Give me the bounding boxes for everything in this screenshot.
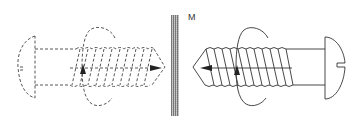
mirror-screw-diagram: M [0, 0, 358, 126]
real-screw [193, 28, 345, 106]
thread-crest-bottom [205, 85, 293, 87]
thread-crest-top-dashed [76, 48, 154, 50]
rotation-arc-dashed [82, 27, 115, 105]
axis-arrow-right-icon [150, 65, 162, 71]
mirror-plane [171, 15, 179, 116]
rotation-arc [236, 28, 268, 106]
axis-arrow-left-icon [200, 65, 212, 71]
screw-head [325, 37, 345, 99]
mirror-image-screw [18, 27, 165, 105]
screw-slot-dashed [20, 67, 25, 70]
thread-lines [206, 49, 293, 85]
thread-lines-dashed [72, 49, 152, 85]
mirror-label: M [188, 12, 196, 22]
thread-crest-top [206, 48, 286, 50]
rotation-marker-icon [80, 64, 86, 74]
thread-crest-bottom-dashed [70, 85, 150, 87]
